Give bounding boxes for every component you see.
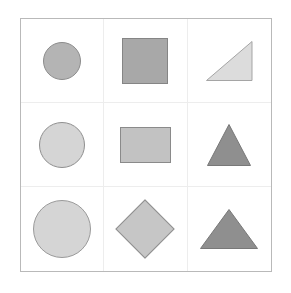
- shape-diamond-large: [116, 199, 175, 258]
- grid-cell-r2c2: [104, 103, 187, 187]
- shape-rectangle-medium: [120, 127, 171, 163]
- grid-cell-r3c1: [21, 187, 104, 271]
- shape-triangle-large: [200, 209, 258, 249]
- grid-cell-r1c2: [104, 19, 187, 103]
- grid-cell-r3c2: [104, 187, 187, 271]
- triangle-polygon: [208, 124, 251, 165]
- grid-cell-r2c1: [21, 103, 104, 187]
- shape-circle-small: [43, 42, 81, 80]
- grid-cell-r1c1: [21, 19, 104, 103]
- shape-circle-medium: [39, 122, 85, 168]
- shape-grid-panel: [20, 18, 272, 272]
- shape-triangle-medium: [207, 124, 251, 166]
- right-triangle-polygon: [207, 41, 253, 80]
- shape-square-medium: [122, 38, 168, 84]
- triangle-polygon: [201, 210, 258, 249]
- grid-cell-r3c3: [188, 187, 271, 271]
- shape-circle-large: [33, 200, 91, 258]
- grid-cell-r1c3: [188, 19, 271, 103]
- shape-right-triangle-medium: [206, 41, 252, 81]
- grid-cell-r2c3: [188, 103, 271, 187]
